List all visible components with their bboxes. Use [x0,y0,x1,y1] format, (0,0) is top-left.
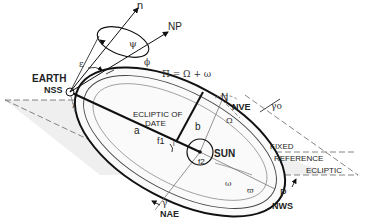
label-pi-formula: Π = Ω + ω [162,69,211,79]
label-sun: SUN [214,148,235,159]
label-omega-cap: Ω [226,116,233,125]
label-nws: NWS [272,201,293,211]
label-psi: ψ [129,38,137,49]
label-np: NP [168,21,182,32]
label-nss: NSS [44,85,63,95]
label-perihelion: P [280,188,287,199]
orbit-ellipses [51,37,309,219]
label-f2: f2 [198,157,205,166]
label-epsilon: ε [79,59,84,69]
label-ecliptic-of-date-2: DATE [145,119,166,128]
label-omega-small: ω [225,179,232,188]
label-node: N [221,92,228,103]
label-fixed-ref-2: REFERENCE [274,154,323,163]
label-n: n [137,0,143,11]
label-a: a [134,125,140,136]
label-b: b [195,121,201,132]
label-gamma: γ [162,198,167,208]
label-lambda: λ [72,102,76,109]
label-earth: EARTH [32,73,66,84]
label-gamma0: γo [271,101,282,111]
label-nae: NAE [160,209,179,219]
label-f1: f1 [157,136,165,146]
label-nve: NVE [232,102,251,112]
label-fixed-ref-1: FIXED [270,142,294,151]
label-ecliptic-of-date-1: ECLIPTIC OF [133,110,182,119]
label-fixed-ref-3: ECLIPTIC [306,166,342,175]
orbit-diagram: n NP ψ ε ϕ EARTH NSS Π = Ω + ω N NVE γo … [0,0,366,219]
label-varpi: ϖ [247,186,254,195]
label-phi: ϕ [144,57,150,67]
